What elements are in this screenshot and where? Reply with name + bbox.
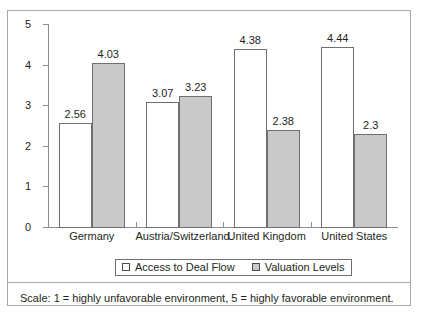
- x-axis-group-separator: [136, 222, 137, 227]
- y-axis-tick: [43, 146, 48, 147]
- legend-swatch-icon-valuation-levels: [252, 263, 260, 271]
- x-axis-group-separator: [311, 222, 312, 227]
- bar[interactable]: [146, 102, 179, 228]
- bar[interactable]: [179, 96, 212, 228]
- x-axis-category-label: Austria/Switzerland: [136, 230, 224, 242]
- y-axis-line: [48, 24, 49, 227]
- y-axis-tick-label: 4: [9, 60, 31, 71]
- bar-value-label: 4.44: [315, 33, 360, 44]
- bar[interactable]: [92, 63, 125, 228]
- y-axis-tick: [43, 186, 48, 187]
- bar[interactable]: [59, 123, 92, 228]
- y-axis-tick: [43, 65, 48, 66]
- chart-footnote: Scale: 1 = highly unfavorable environmen…: [20, 292, 394, 305]
- footer-divider: [8, 282, 410, 283]
- y-axis-tick: [43, 105, 48, 106]
- y-axis-tick: [43, 24, 48, 25]
- bar-value-label: 3.23: [173, 82, 218, 93]
- legend-swatch-icon-access-to-deal-flow: [122, 263, 130, 271]
- y-axis-tick-label: 1: [9, 181, 31, 192]
- bar-value-label: 2.3: [348, 120, 393, 131]
- y-axis-tick-label: 3: [9, 100, 31, 111]
- bar-value-label: 2.56: [53, 109, 98, 120]
- legend-item-access-to-deal-flow[interactable]: Access to Deal Flow: [122, 262, 235, 273]
- bar[interactable]: [267, 130, 300, 228]
- x-axis-group-separator: [223, 222, 224, 227]
- chart-figure: 012345 2.564.033.073.234.382.384.442.3 G…: [7, 10, 411, 306]
- bar-value-label: 2.38: [261, 116, 306, 127]
- y-axis-tick: [43, 227, 48, 228]
- y-axis-tick-label: 5: [9, 19, 31, 30]
- y-axis-tick-label: 2: [9, 141, 31, 152]
- x-axis-category-label: Germany: [48, 230, 136, 242]
- bar[interactable]: [234, 49, 267, 228]
- plot-area: 012345 2.564.033.073.234.382.384.442.3 G…: [34, 24, 399, 240]
- x-axis-category-label: United States: [311, 230, 399, 242]
- bar-value-label: 4.38: [228, 35, 273, 46]
- legend-label-access-to-deal-flow: Access to Deal Flow: [135, 262, 235, 273]
- legend-label-valuation-levels: Valuation Levels: [265, 262, 345, 273]
- bar[interactable]: [321, 47, 354, 228]
- bar-value-label: 4.03: [86, 49, 131, 60]
- bar[interactable]: [354, 134, 387, 228]
- chart-legend: Access to Deal Flow Valuation Levels: [115, 259, 352, 276]
- x-axis-category-label: United Kingdom: [223, 230, 311, 242]
- legend-item-valuation-levels[interactable]: Valuation Levels: [252, 262, 345, 273]
- y-axis-tick-label: 0: [9, 222, 31, 233]
